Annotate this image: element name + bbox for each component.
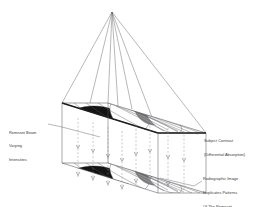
radiography-diagram-figure: Remnant Beam Varying Intensities Subject…	[0, 0, 271, 207]
lower-plane-contents	[64, 162, 200, 193]
label-subject-contrast: Subject Contrast (Differential Absorptio…	[204, 130, 245, 167]
label-radiographic-image-line-3: Of The Remnant	[203, 205, 238, 207]
label-remnant-beam-line-2: Varying	[9, 144, 36, 149]
lower-plane-group	[62, 162, 206, 193]
leader-remnant-beam	[48, 124, 100, 137]
label-subject-contrast-line-2: (Differential Absorption)	[204, 153, 245, 158]
label-remnant-beam: Remnant Beam Varying Intensities	[9, 122, 36, 173]
label-subject-contrast-line-1: Subject Contrast	[204, 139, 245, 144]
beam-ray-left-outer	[62, 12, 112, 103]
upper-plane-group	[62, 102, 206, 133]
label-radiographic-image-line-2: Duplicates Patterns	[203, 191, 238, 196]
label-radiographic-image-line-1: Radiographic Image	[203, 177, 238, 182]
upper-plane-contents	[64, 102, 200, 133]
diagram-line-art	[48, 12, 206, 193]
label-radiographic-image: Radiographic Image Duplicates Patterns O…	[203, 168, 238, 207]
label-remnant-beam-line-3: Intensities	[9, 158, 36, 163]
label-remnant-beam-line-1: Remnant Beam	[9, 131, 36, 136]
